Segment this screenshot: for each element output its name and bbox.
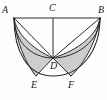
vertex-label-f: F <box>68 80 74 90</box>
vertex-label-a: A <box>2 5 8 15</box>
vertex-label-d: D <box>50 61 57 71</box>
geometry-figure: A C B D E F <box>0 0 107 100</box>
vertex-label-c: C <box>49 3 56 13</box>
vertex-label-e: E <box>31 80 37 90</box>
figure-canvas <box>0 0 107 100</box>
vertex-label-b: B <box>98 5 104 15</box>
